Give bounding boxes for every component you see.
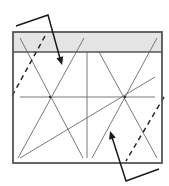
right-dashed-line [126, 97, 164, 161]
geometric-line-diagram [0, 0, 169, 186]
shaded-top-band [13, 32, 162, 52]
bottom-pointer-arrow [109, 131, 159, 181]
right-crossing-dot [124, 96, 126, 98]
arrowhead-icon [109, 131, 116, 140]
left-x-line-2 [18, 38, 84, 158]
dashed-lines-group [11, 36, 164, 161]
thin-lines-group [18, 38, 157, 158]
bottom-pointer-arrow-shaft [111, 134, 159, 181]
left-crossing-dot [49, 96, 51, 98]
arrowhead-icon [56, 56, 63, 65]
